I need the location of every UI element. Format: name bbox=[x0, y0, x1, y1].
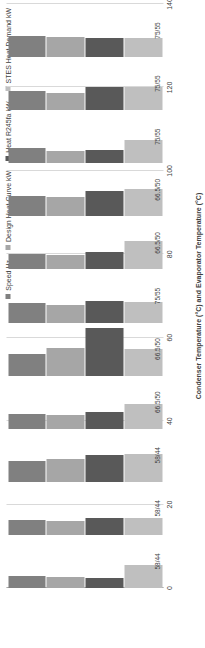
bar[interactable] bbox=[46, 459, 84, 482]
value-tick-label: 40 bbox=[165, 417, 172, 425]
bar[interactable] bbox=[8, 91, 46, 110]
value-axis-ticks: 020406080100120140 bbox=[165, 4, 179, 588]
bar-groups bbox=[6, 4, 163, 588]
value-tick-label: 120 bbox=[165, 82, 172, 94]
category-tick-label: 75/55 bbox=[153, 110, 165, 163]
bar-group bbox=[6, 535, 163, 588]
bar-group bbox=[6, 57, 163, 110]
bar-slot bbox=[46, 4, 85, 57]
category-tick-label: 66.5/50 bbox=[153, 216, 165, 269]
bar[interactable] bbox=[46, 521, 84, 535]
bar-slot bbox=[7, 482, 46, 535]
bar[interactable] bbox=[8, 303, 46, 322]
bar-slot bbox=[7, 376, 46, 429]
bar[interactable] bbox=[46, 255, 84, 270]
bar[interactable] bbox=[8, 254, 46, 270]
bar-slot bbox=[46, 376, 85, 429]
bar[interactable] bbox=[46, 197, 84, 216]
category-tick-label: 66.5/50 bbox=[153, 323, 165, 376]
bar[interactable] bbox=[8, 354, 46, 376]
bar-group bbox=[6, 482, 163, 535]
category-tick-label: 75/55 bbox=[153, 269, 165, 322]
bar[interactable] bbox=[8, 196, 46, 216]
bar-chart: Speed HzDesign Heat Curve kWHeat R245fa … bbox=[0, 0, 205, 648]
category-tick-label: 75/55 bbox=[153, 57, 165, 110]
bar[interactable] bbox=[85, 87, 123, 110]
bar-slot bbox=[46, 57, 85, 110]
bar-slot bbox=[46, 110, 85, 163]
bar[interactable] bbox=[46, 577, 84, 588]
bar-group bbox=[6, 269, 163, 322]
bar[interactable] bbox=[85, 412, 123, 428]
value-tick-label: 100 bbox=[165, 165, 172, 177]
bar-slot bbox=[85, 110, 124, 163]
bar[interactable] bbox=[46, 415, 84, 429]
bar-slot bbox=[7, 323, 46, 376]
bar[interactable] bbox=[85, 301, 123, 323]
bar-slot bbox=[85, 429, 124, 482]
bar[interactable] bbox=[46, 348, 84, 375]
bar-slot bbox=[7, 110, 46, 163]
bar-slot bbox=[46, 163, 85, 216]
bar[interactable] bbox=[85, 518, 123, 535]
bar-slot bbox=[46, 535, 85, 588]
bar[interactable] bbox=[8, 520, 46, 535]
category-tick-label: 58/44 bbox=[153, 535, 165, 588]
bar[interactable] bbox=[8, 461, 46, 482]
bar[interactable] bbox=[46, 305, 84, 322]
bar[interactable] bbox=[85, 578, 123, 588]
value-tick-label: 0 bbox=[165, 586, 172, 590]
bar[interactable] bbox=[85, 191, 123, 217]
plot-area bbox=[6, 4, 163, 588]
category-tick-label: 66.5/50 bbox=[153, 163, 165, 216]
bar-slot bbox=[46, 482, 85, 535]
bar[interactable] bbox=[85, 150, 123, 164]
bar-slot bbox=[85, 535, 124, 588]
bar-slot bbox=[7, 57, 46, 110]
value-tick-label: 20 bbox=[165, 501, 172, 509]
bar[interactable] bbox=[8, 414, 46, 429]
bar-group bbox=[6, 163, 163, 216]
category-tick-label: 58/44 bbox=[153, 482, 165, 535]
rotated-chart-wrapper: Speed HzDesign Heat Curve kWHeat R245fa … bbox=[0, 0, 205, 648]
category-tick-label: 75/55 bbox=[153, 4, 165, 57]
bar-slot bbox=[7, 216, 46, 269]
category-axis-ticks: 58/4458/4458/4466.5/5066.5/5075/5566.5/5… bbox=[153, 4, 165, 588]
bar-group bbox=[6, 216, 163, 269]
value-tick-label: 140 bbox=[165, 0, 172, 10]
bar-group bbox=[6, 110, 163, 163]
bar-slot bbox=[85, 482, 124, 535]
category-tick-label: 58/44 bbox=[153, 429, 165, 482]
bar-group bbox=[6, 323, 163, 376]
bar-slot bbox=[7, 535, 46, 588]
bar-slot bbox=[7, 163, 46, 216]
category-tick-label: 66.5/50 bbox=[153, 376, 165, 429]
bar-slot bbox=[46, 216, 85, 269]
bar-slot bbox=[85, 323, 124, 376]
bar[interactable] bbox=[46, 93, 84, 110]
axis-title: Condenser Temperature (°C) and Evaporato… bbox=[194, 4, 201, 588]
bar[interactable] bbox=[8, 576, 46, 588]
bar-group bbox=[6, 376, 163, 429]
bar-slot bbox=[7, 269, 46, 322]
bar-slot bbox=[85, 163, 124, 216]
bar[interactable] bbox=[8, 148, 46, 163]
bar[interactable] bbox=[46, 37, 84, 57]
bar[interactable] bbox=[8, 36, 46, 57]
bar[interactable] bbox=[46, 151, 84, 164]
bar[interactable] bbox=[85, 252, 123, 270]
bar-slot bbox=[85, 376, 124, 429]
bar-slot bbox=[85, 57, 124, 110]
bar-group bbox=[6, 4, 163, 57]
bar[interactable] bbox=[85, 455, 123, 482]
chart-canvas: Speed HzDesign Heat Curve kWHeat R245fa … bbox=[0, 0, 205, 648]
bar-slot bbox=[85, 4, 124, 57]
value-tick-label: 80 bbox=[165, 250, 172, 258]
bar[interactable] bbox=[85, 328, 123, 375]
bar-slot bbox=[7, 429, 46, 482]
bar-slot bbox=[85, 216, 124, 269]
bar[interactable] bbox=[85, 38, 123, 57]
bar-group bbox=[6, 429, 163, 482]
bar-slot bbox=[46, 429, 85, 482]
bar-slot bbox=[85, 269, 124, 322]
